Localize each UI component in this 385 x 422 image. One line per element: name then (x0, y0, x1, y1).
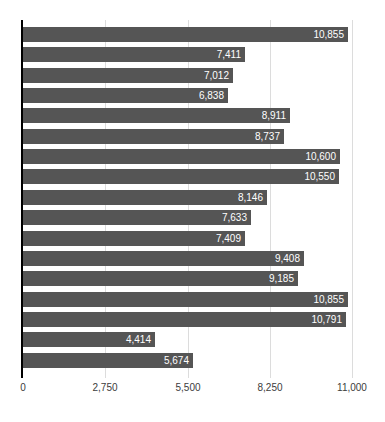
bar-row: 7,633 (23, 210, 352, 225)
bar-value-label: 8,146 (23, 190, 267, 205)
bar-value-label: 4,414 (23, 332, 155, 347)
bar-row: 8,911 (23, 108, 352, 123)
bar-value-label: 9,408 (23, 251, 304, 266)
x-tick-label: 0 (20, 382, 26, 393)
bar-row: 4,414 (23, 332, 352, 347)
bar-value-label: 10,855 (23, 27, 348, 42)
x-tick-label: 5,500 (175, 382, 200, 393)
bar-row: 6,838 (23, 88, 352, 103)
bar-row: 10,855 (23, 292, 352, 307)
plot-area: 10,8557,4117,0126,8388,9118,73710,60010,… (23, 20, 352, 378)
bar-value-label: 9,185 (23, 271, 298, 286)
bar-value-label: 7,012 (23, 68, 233, 83)
x-tick-label: 2,750 (92, 382, 117, 393)
bar-value-label: 10,550 (23, 169, 339, 184)
x-axis: 02,7505,5008,25011,000 (0, 378, 385, 402)
bars-container: 10,8557,4117,0126,8388,9118,73710,60010,… (23, 20, 352, 378)
bar-value-label: 10,791 (23, 312, 346, 327)
bar-value-label: 7,411 (23, 47, 245, 62)
bar-row: 7,411 (23, 47, 352, 62)
bar-value-label: 6,838 (23, 88, 228, 103)
bar-row: 8,737 (23, 129, 352, 144)
bar-value-label: 10,855 (23, 292, 348, 307)
bar-row: 5,674 (23, 353, 352, 368)
bar-value-label: 10,600 (23, 149, 340, 164)
bar-chart: 10,8557,4117,0126,8388,9118,73710,60010,… (0, 0, 385, 422)
bar-value-label: 7,633 (23, 210, 251, 225)
bar-row: 10,550 (23, 169, 352, 184)
bar-row: 9,185 (23, 271, 352, 286)
bar-row: 7,409 (23, 231, 352, 246)
bar-row: 8,146 (23, 190, 352, 205)
bar-value-label: 8,911 (23, 108, 290, 123)
x-tick-label: 11,000 (337, 382, 367, 393)
bar-value-label: 8,737 (23, 129, 284, 144)
bar-value-label: 7,409 (23, 231, 245, 246)
bar-row: 10,791 (23, 312, 352, 327)
gridline-11000 (352, 20, 353, 378)
bar-value-label: 5,674 (23, 353, 193, 368)
bar-row: 9,408 (23, 251, 352, 266)
bar-row: 10,600 (23, 149, 352, 164)
bar-row: 7,012 (23, 68, 352, 83)
bar-row: 10,855 (23, 27, 352, 42)
x-tick-label: 8,250 (257, 382, 282, 393)
